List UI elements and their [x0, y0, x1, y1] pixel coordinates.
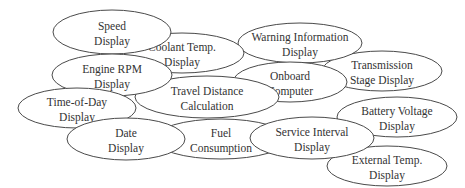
node-label-line2: Display [369, 169, 405, 182]
node-label-line1: Onboard [270, 70, 310, 82]
node-label-line1: Date [115, 127, 137, 139]
node-label-line2: Display [108, 142, 144, 155]
node-label-line2: Display [379, 120, 415, 133]
node-label-line2: Display [294, 141, 330, 154]
node-label-line1: Service Interval [275, 126, 348, 138]
node-label-line1: Warning Information [251, 31, 348, 44]
node-label-line2: Consumption [190, 142, 252, 155]
node-service: Service Interval Display [250, 117, 374, 159]
node-label-line1: Time-of-Day [47, 96, 108, 109]
node-label-line2: Display [282, 46, 318, 59]
node-label-line1: Fuel [211, 127, 231, 139]
node-label-line1: Transmission [351, 59, 413, 71]
node-label-line1: Travel Distance [171, 85, 244, 97]
node-label-line1: Engine RPM [82, 63, 142, 76]
node-label-line2: Display [94, 35, 130, 48]
node-date: Date Display [67, 118, 185, 160]
node-label-line2: Display [164, 56, 200, 69]
feature-bubble-diagram: Transmission Stage Display Warning Infor… [0, 0, 465, 188]
node-warning: Warning Information Display [238, 23, 362, 63]
node-label-line1: Battery Voltage [361, 105, 432, 118]
node-label-line1: Speed [98, 20, 126, 33]
node-speed: Speed Display [53, 10, 171, 54]
node-label-line2: Stage Display [350, 74, 414, 87]
node-label-line2: Calculation [180, 100, 233, 112]
node-ellipse [53, 10, 171, 54]
node-label-line1: External Temp. [352, 154, 423, 167]
